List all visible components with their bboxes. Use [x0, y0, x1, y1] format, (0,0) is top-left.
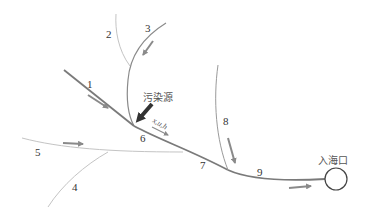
segment-label-2: 2: [106, 28, 112, 40]
segment-label-4: 4: [72, 181, 78, 193]
flow-arrow-3: [143, 41, 153, 55]
segment-label-7: 7: [200, 159, 206, 171]
segment-label-3: 3: [145, 22, 151, 34]
segment-label-8: 8: [223, 115, 229, 127]
outlet-label: 入海口: [318, 154, 348, 166]
flow-arrow-9: [289, 186, 311, 188]
river-segment-5: [22, 138, 183, 152]
segment-label-9: 9: [257, 166, 263, 178]
flow-arrow-5: [63, 143, 83, 144]
state-variables-label: x,u,h: [150, 115, 169, 131]
pollution-source-arrow: [139, 104, 152, 119]
flow-arrow-8: [228, 138, 235, 163]
river-segment-6-7: [134, 126, 228, 170]
segment-label-6: 6: [140, 132, 146, 144]
river-segment-2: [116, 14, 130, 66]
river-network-diagram: 1 2 3 4 5 6 7 8 9 污染源 x,u,h 入海口: [0, 0, 366, 218]
segment-label-1: 1: [87, 78, 93, 90]
pollution-source-label: 污染源: [143, 91, 173, 103]
segment-label-5: 5: [35, 146, 41, 158]
river-segment-4: [48, 152, 108, 207]
river-segment-9: [228, 170, 325, 180]
river-segment-1: [64, 70, 134, 126]
outlet-circle: [325, 168, 347, 190]
